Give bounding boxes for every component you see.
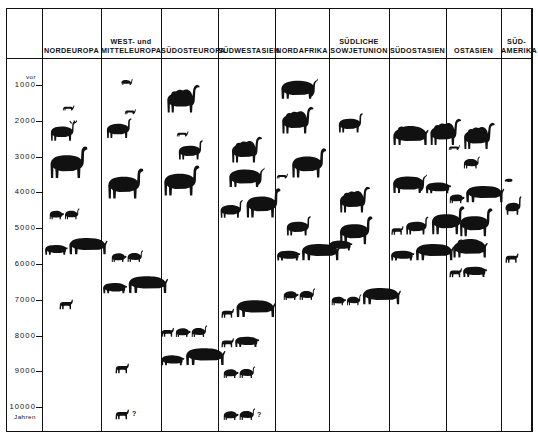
animal-silhouette-set [163,84,203,117]
animal-silhouette-set [104,118,136,142]
animal-pig-icon [463,267,487,277]
animal-sheep-icon [224,369,239,378]
animal-dog-icon [116,410,129,420]
column-header-label-sowjetunion: SÜDLICHESOWJETUNION [329,37,389,55]
animal-group-suedosteuropa [160,325,211,341]
animal-cattle-icon [129,276,168,293]
column-header-label-nordeuropa: NORDEUROPA [42,46,101,55]
animal-silhouette-set [222,408,259,424]
animal-group-sowjetunion [330,284,403,309]
animal-pig-icon [45,245,68,255]
animal-group-suedamerika [504,252,523,266]
animal-group-suedamerika [503,196,525,219]
animal-silhouette-set [44,234,110,259]
animal-silhouette-set [390,240,456,265]
animal-reindeer-icon [51,120,77,141]
animal-group-suedamerika [504,178,516,184]
animal-group-nordeuropa [46,146,90,182]
column-header-suedamerika: SÜD-AMERIKA [501,8,532,58]
animal-silhouette-set [504,178,516,184]
animal-sheep-icon [50,211,64,219]
animal-silhouette-set [390,172,455,197]
animal-dog-icon [60,300,73,310]
animal-silhouette-set [336,186,374,217]
y-tick-8000 [36,336,43,337]
animal-pig-icon [103,283,127,293]
column-header-label-westmittel: WEST- undMITTELEUROPA [101,37,161,55]
animal-sheep-icon [176,328,191,337]
animal-horse-icon [292,148,326,177]
column-header-label-nordafrika: NORDAFRIKA [275,46,329,55]
animal-silhouette-set [503,196,525,219]
animal-group-nordafrika [278,106,317,138]
column-separator-suedamerika [532,8,533,432]
animal-goat-icon [464,156,480,168]
animal-silhouette-set [114,408,134,423]
animal-silhouette-set [48,208,83,223]
animal-silhouette-set [336,113,367,137]
animal-horse-icon [164,165,199,195]
animal-silhouette-set [110,250,147,266]
animal-goat-icon [300,288,316,300]
animal-group-westmittel [120,78,137,88]
animal-silhouette-set [160,165,202,200]
animal-group-ostasien [448,122,498,153]
column-header-sowjetunion: SÜDLICHESOWJETUNION [329,8,389,58]
y-tick-9000 [36,371,43,372]
column-header-label-suedwestasien: SÜDWESTASIEN [218,46,275,55]
animal-group-suedosteuropa [160,344,227,369]
animal-group-suedwestasien [220,296,278,321]
animal-dog-icon [116,364,129,374]
column-header-ostasien: OSTASIEN [446,8,501,58]
animal-group-sowjetunion [328,238,356,255]
animal-group-suedwestasien [218,188,283,222]
animal-group-nordeuropa [48,120,78,145]
animal-dog-icon [221,338,233,347]
animal-silhouette-set [282,288,319,304]
animal-silhouette-set [228,136,266,167]
animal-cat-icon [63,105,75,110]
animal-group-westmittel [104,118,136,142]
animal-camel-icon [232,137,262,163]
animal-horse-icon [247,188,281,217]
animal-cat-icon [277,174,288,179]
animal-camel-icon [340,187,370,213]
animal-silhouette-set [46,146,90,182]
header-divider [6,58,532,59]
animal-silhouette-set [276,148,329,182]
animal-group-westmittel: ? [114,408,134,423]
animal-camel-icon [167,85,199,113]
y-tick-label-2000: 2000 [15,116,36,125]
animal-cattle-icon [69,238,107,254]
axis-note-top: vor [26,72,36,81]
animal-silhouette-set [278,106,317,138]
column-separator-nordeuropa [101,8,102,432]
y-tick-1000 [36,85,43,86]
animal-silhouette-set [328,238,356,255]
column-header-suedostasien: SÜDOSTASIEN [389,8,446,58]
animal-goat-icon [240,366,256,378]
animal-rabbit-icon [121,79,133,85]
animal-group-suedwestasien: ? [222,408,259,424]
animal-group-nordafrika [278,76,320,103]
animal-silhouette-set [114,362,134,377]
y-axis-line [42,8,43,432]
y-tick-label-10000: 10000 [9,402,36,411]
animal-pig-icon [329,241,352,251]
column-header-label-ostasien: OSTASIEN [446,46,501,55]
animal-horse-icon [460,208,492,236]
uncertain-marker: ? [257,411,261,418]
animal-cattle-icon [363,288,401,304]
animal-cat-icon [449,145,460,150]
animal-goat-icon [65,208,80,219]
animal-group-suedwestasien [222,366,259,382]
uncertain-marker: ? [132,410,136,417]
animal-goat-icon [347,294,362,305]
animal-silhouette-set [220,334,263,351]
animal-group-nordafrika [276,148,329,182]
animal-group-westmittel [114,362,134,377]
animal-silhouette-set [176,130,193,140]
animal-camel-icon [464,123,495,149]
animal-group-sowjetunion [336,186,374,217]
animal-group-westmittel [110,250,147,266]
